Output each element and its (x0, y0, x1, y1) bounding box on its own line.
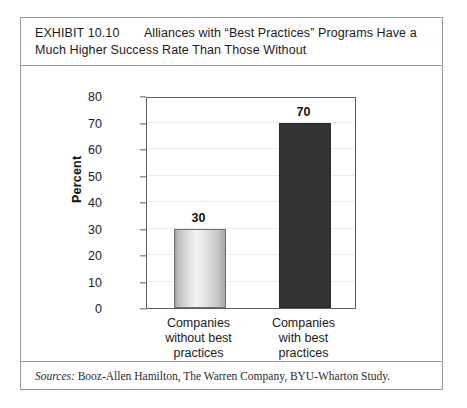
category-label-line: without best (139, 331, 259, 346)
sources-citation: Booz-Allen Hamilton, The Warren Company,… (78, 370, 390, 382)
category-label-line: Companies (244, 316, 364, 331)
category-label: Companieswithout bestpractices (139, 316, 259, 361)
exhibit-title-line-2: Much Higher Success Rate Than Those With… (35, 42, 428, 59)
exhibit-title-line-1: EXHIBIT 10.10 Alliances with “Best Pract… (35, 25, 428, 42)
y-axis-tick-label: 80 (62, 90, 102, 104)
bar (174, 229, 226, 309)
exhibit-box: EXHIBIT 10.10 Alliances with “Best Pract… (20, 17, 443, 390)
bar-value-label: 70 (274, 105, 334, 119)
plot-area (146, 97, 356, 309)
sources-line: Sources: Booz-Allen Hamilton, The Warren… (35, 370, 428, 382)
y-axis-tick-label: 20 (62, 249, 102, 263)
y-axis-tick-label: 0 (62, 302, 102, 316)
y-axis-tick-label: 60 (62, 143, 102, 157)
bar-value-label: 30 (169, 211, 229, 225)
y-axis-tick-label: 50 (62, 170, 102, 184)
y-axis-tick-label: 10 (62, 276, 102, 290)
sources-block: Sources: Booz-Allen Hamilton, The Warren… (21, 361, 442, 389)
y-axis-tick-label: 70 (62, 117, 102, 131)
category-label-line: with best (244, 331, 364, 346)
y-axis-tick-label: 40 (62, 196, 102, 210)
bar-chart: Percent 01020304050607080 3070 Companies… (21, 59, 444, 363)
exhibit-title-text-1: Alliances with “Best Practices” Programs… (144, 26, 417, 40)
category-label-line: Companies (139, 316, 259, 331)
sources-label: Sources: (35, 370, 75, 382)
category-label-line: practices (139, 346, 259, 361)
exhibit-number: EXHIBIT 10.10 (35, 26, 119, 40)
y-axis-tick-label: 30 (62, 223, 102, 237)
category-label-line: practices (244, 346, 364, 361)
bar (279, 123, 331, 309)
category-label: Companieswith bestpractices (244, 316, 364, 361)
